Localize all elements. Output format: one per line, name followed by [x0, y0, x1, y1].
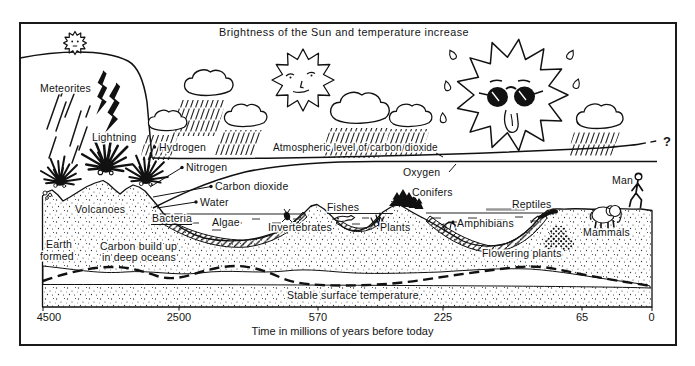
plants-label: Plants [380, 221, 410, 233]
flowering-plants-label: Flowering plants [482, 247, 562, 259]
oxygen-label: Oxygen [403, 166, 440, 178]
bacteria-label: Bacteria [152, 212, 192, 224]
man-label: Man [612, 174, 633, 186]
diagram-title: Brightness of the Sun and temperature in… [219, 26, 469, 38]
stable-temperature-label: Stable surface temperature [287, 289, 419, 301]
nitrogen-label: Nitrogen [186, 161, 227, 173]
lightning-label: Lightning [92, 131, 136, 143]
axis-tick-570: 570 [309, 311, 327, 323]
axis-caption: Time in millions of years before today [252, 325, 434, 337]
earth-history-diagram: Brightness of the Sun and temperature in… [0, 0, 695, 366]
fishes-label: Fishes [327, 201, 359, 213]
axis-tick-225: 225 [434, 311, 452, 323]
co2-level-label: Atmospheric level of carbon dioxide [273, 142, 438, 153]
tongue-icon [505, 110, 519, 132]
diagram-page: Brightness of the Sun and temperature in… [0, 0, 695, 366]
algae-label: Algae [212, 216, 240, 228]
axis-tick-65: 65 [576, 311, 588, 323]
reptiles-label: Reptiles [512, 198, 552, 210]
invertebrates-label: Invertebrates [268, 221, 332, 233]
amphibians-label: Amphibians [457, 217, 514, 229]
carbon-buildup-label-line2: in deep oceans [102, 251, 176, 263]
conifers-label: Conifers [412, 186, 453, 198]
future-question-mark: ? [663, 134, 671, 149]
water-label: Water [200, 196, 229, 208]
mammals-label: Mammals [583, 226, 630, 238]
carbon-dioxide-label: Carbon dioxide [215, 180, 288, 192]
hydrogen-label: Hydrogen [159, 141, 206, 153]
earth-formed-label-line1: Earth [46, 238, 72, 250]
meteorites-label: Meteorites [40, 82, 91, 94]
earth-formed-label-line2: formed [40, 250, 74, 262]
volcanoes-label: Volcanoes [75, 203, 125, 215]
axis-tick-2500: 2500 [167, 311, 191, 323]
axis-tick-4500: 4500 [37, 311, 61, 323]
axis-tick-0: 0 [648, 311, 654, 323]
carbon-buildup-label-line1: Carbon build up [100, 240, 177, 252]
